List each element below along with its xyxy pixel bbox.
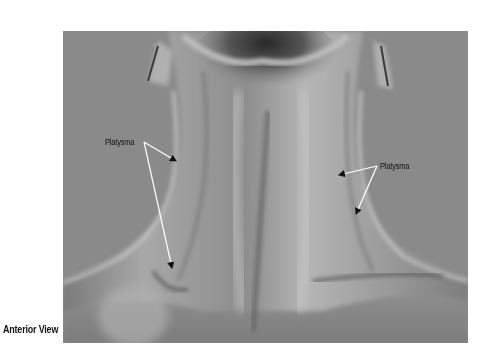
anatomy-figure: Platysma Platysma Anterior View bbox=[0, 0, 482, 356]
neck-model-photo bbox=[63, 31, 468, 343]
neck-illustration bbox=[63, 31, 468, 343]
label-platysma-left: Platysma bbox=[105, 137, 134, 147]
label-platysma-right: Platysma bbox=[380, 161, 409, 171]
figure-caption: Anterior View bbox=[3, 323, 58, 335]
